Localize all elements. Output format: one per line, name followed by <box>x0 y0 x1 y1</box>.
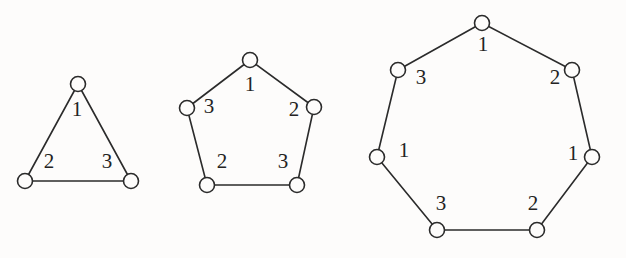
heptagon-vertex-upper-right <box>565 63 580 78</box>
pentagon-edge-3-label: 3 <box>278 149 289 173</box>
triangle-vertex-top <box>71 77 86 92</box>
heptagon-edge-1-label: 1 <box>478 32 489 56</box>
heptagon-vertex-lower-left <box>430 223 445 238</box>
heptagon-edge-5 <box>377 157 437 230</box>
polygon-figure-canvas: 132123231212313 <box>0 0 626 258</box>
pentagon-vertex-right <box>307 100 322 115</box>
pentagon-edge-1-label: 1 <box>245 72 256 96</box>
heptagon-edge-7 <box>398 23 482 70</box>
heptagon-edge-3 <box>537 157 592 230</box>
heptagon-edge-6-label: 1 <box>399 138 410 162</box>
heptagon-edge-5-label: 3 <box>436 191 447 215</box>
pentagon-edge-5-label: 3 <box>204 94 215 118</box>
triangle-edge-2-label: 3 <box>102 149 113 173</box>
polygon-figure: 132123231212313 <box>0 0 626 258</box>
polygons-layer: 132123231212313 <box>18 16 600 238</box>
heptagon-edge-4-label: 2 <box>528 191 539 215</box>
pentagon-edge-2 <box>297 107 314 185</box>
triangle-vertex-bottom-left <box>18 174 33 189</box>
pentagon-edge-1 <box>250 60 314 107</box>
heptagon-edge-1 <box>482 23 572 70</box>
triangle-edge-3-label: 2 <box>44 149 55 173</box>
heptagon-vertex-right <box>585 150 600 165</box>
triangle-edge-1-label: 1 <box>72 97 83 121</box>
pentagon-edge-2-label: 2 <box>289 97 300 121</box>
triangle-group: 132 <box>18 77 139 189</box>
pentagon-vertex-bottom-left <box>200 178 215 193</box>
heptagon-vertex-upper-left <box>391 63 406 78</box>
pentagon-vertex-bottom-right <box>290 178 305 193</box>
heptagon-edge-7-label: 3 <box>416 65 427 89</box>
heptagon-edge-3-label: 1 <box>568 141 579 165</box>
pentagon-group: 12323 <box>180 53 322 193</box>
heptagon-edge-6 <box>377 70 398 157</box>
pentagon-edge-4-label: 2 <box>217 149 228 173</box>
heptagon-edge-2-label: 2 <box>550 65 561 89</box>
pentagon-vertex-top <box>243 53 258 68</box>
heptagon-vertex-top <box>475 16 490 31</box>
heptagon-group: 1212313 <box>370 16 600 238</box>
heptagon-vertex-left <box>370 150 385 165</box>
pentagon-vertex-left <box>180 101 195 116</box>
triangle-vertex-bottom-right <box>124 174 139 189</box>
heptagon-vertex-lower-right <box>530 223 545 238</box>
pentagon-edge-5 <box>187 60 250 108</box>
pentagon-edge-4 <box>187 108 207 185</box>
